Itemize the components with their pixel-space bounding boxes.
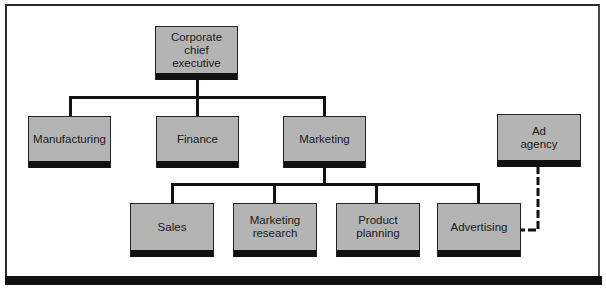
node-shadow-bar	[438, 250, 520, 257]
node-manufacturing: Manufacturing	[28, 116, 111, 168]
node-sales: Sales	[130, 203, 214, 257]
connector-to-product-planning	[375, 183, 378, 204]
node-label: Marketing	[284, 117, 365, 161]
connector-to-manufacturing	[69, 96, 72, 116]
node-shadow-bar	[157, 161, 238, 168]
node-label: Sales	[131, 204, 213, 250]
node-label: Product planning	[337, 204, 419, 250]
node-shadow-bar	[156, 73, 237, 80]
node-label: Advertising	[438, 204, 520, 250]
node-marketing: Marketing	[283, 116, 366, 168]
node-label: Marketing research	[234, 204, 316, 250]
frame-bottom-bar	[5, 276, 602, 285]
node-shadow-bar	[131, 250, 213, 257]
node-ad-agency: Ad agency	[497, 114, 581, 167]
connector-to-marketing-research	[273, 183, 276, 204]
node-corporate-chief-executive: Corporate chief executive	[155, 26, 238, 80]
node-product-planning: Product planning	[336, 203, 420, 257]
node-shadow-bar	[284, 161, 365, 168]
connector-level2-horizontal	[171, 183, 480, 186]
node-shadow-bar	[29, 161, 110, 168]
node-finance: Finance	[156, 116, 239, 168]
connector-to-finance	[196, 96, 199, 116]
node-shadow-bar	[498, 160, 580, 167]
node-label: Ad agency	[498, 115, 580, 160]
node-marketing-research: Marketing research	[233, 203, 317, 257]
node-label: Finance	[157, 117, 238, 161]
connector-to-sales	[171, 183, 174, 204]
node-label: Corporate chief executive	[156, 27, 237, 73]
node-shadow-bar	[337, 250, 419, 257]
node-advertising: Advertising	[437, 203, 521, 257]
connector-to-marketing	[323, 96, 326, 116]
cropped-caption	[0, 287, 606, 293]
node-shadow-bar	[234, 250, 316, 257]
node-label: Manufacturing	[29, 117, 110, 161]
connector-to-advertising	[477, 183, 480, 204]
